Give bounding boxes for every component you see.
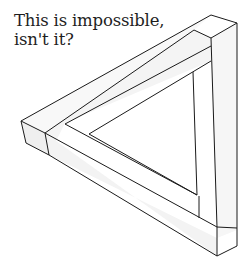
right-bar-face: [211, 23, 237, 238]
top-bar-front-face: [45, 30, 211, 155]
impossible-triangle-figure: [0, 0, 252, 277]
bottom-bar-face: [45, 133, 217, 256]
top-bar-top-face: [21, 15, 211, 133]
